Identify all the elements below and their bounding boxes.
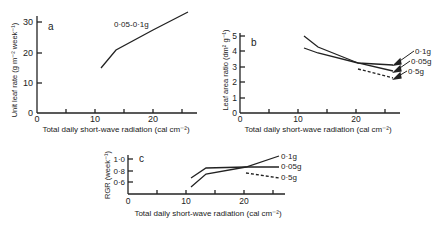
ytick-2: 2 (232, 77, 237, 87)
panel-label-c: c (139, 153, 144, 164)
ytick-08-c: 0·8 (113, 167, 125, 176)
legend-c-01: 0·1g (281, 152, 297, 161)
xtick-0: 0 (34, 114, 39, 124)
figure: 30 20 10 0 0 10 20 a 0·05-0·1g Total dai… (0, 0, 441, 228)
legend-b-05: 0·5g (408, 67, 424, 76)
xtick-0-c: 0 (126, 196, 131, 206)
legend-c-05: 0·5g (281, 173, 297, 182)
panel-label-b: b (251, 37, 257, 48)
ytick-3: 3 (232, 62, 237, 72)
panel-c: 1·0 0·8 0·6 0 10 20 c 0·1g 0·05g 0·5g To… (103, 151, 301, 218)
xtick-20-b: 20 (351, 114, 361, 124)
y-axis-label-c: RGR (week⁻¹) (103, 151, 112, 199)
xtick-0-b: 0 (238, 114, 243, 124)
y-axis-label-b: Leaf area ratio (dm² g⁻¹) (221, 29, 230, 111)
x-axis-label-a: Total daily short-wave radiation (cal cm… (42, 125, 189, 134)
ytick-5: 5 (232, 31, 237, 41)
ytick-0-b: 0 (232, 108, 237, 118)
series-c-05 (246, 173, 279, 178)
ytick-1: 1 (232, 93, 237, 103)
xtick-10-c: 10 (181, 196, 191, 206)
y-axis-label-a: Unit leaf rate (g m⁻² week⁻¹) (10, 22, 19, 117)
panel-label-a: a (48, 21, 54, 32)
series-label-a: 0·05-0·1g (114, 20, 149, 29)
ytick-30: 30 (23, 17, 33, 27)
x-axis-label-c: Total daily short-wave radiation (cal cm… (134, 209, 281, 218)
series-b-01 (304, 48, 393, 65)
ytick-0: 0 (28, 108, 33, 118)
ytick-06-c: 0·6 (113, 178, 125, 187)
panel-b: 5 4 3 2 1 0 0 10 20 b 0·1g 0·05g 0·5g To… (221, 29, 431, 134)
legend-b-01: 0·1g (415, 47, 431, 56)
series-c-01 (191, 156, 279, 187)
legend-b-005: 0·05g (411, 57, 431, 66)
xtick-20-c: 20 (239, 196, 249, 206)
xtick-10: 10 (90, 114, 100, 124)
legend-c-005: 0·05g (281, 162, 301, 171)
series-b-005 (304, 36, 393, 71)
panel-a: 30 20 10 0 0 10 20 a 0·05-0·1g Total dai… (10, 12, 197, 134)
xtick-10-b: 10 (293, 114, 303, 124)
ytick-4: 4 (232, 46, 237, 56)
ytick-20: 20 (23, 48, 33, 58)
x-axis-label-b: Total daily short-wave radiation (cal cm… (244, 125, 391, 134)
ytick-10: 10 (23, 78, 33, 88)
ytick-10-c: 1·0 (113, 155, 125, 164)
xtick-20: 20 (148, 114, 158, 124)
